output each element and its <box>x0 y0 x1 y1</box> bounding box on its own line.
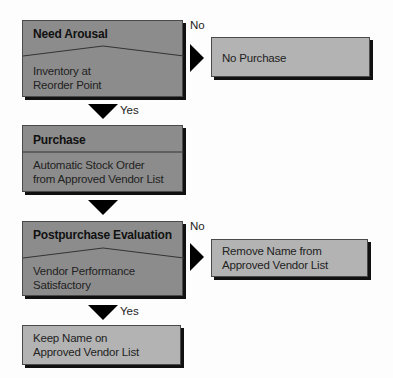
purchase-box: Purchase Automatic Stock Order from Appr… <box>22 125 183 192</box>
postpurchase-line1: Vendor Performance <box>33 264 135 278</box>
purchase-line2: from Approved Vendor List <box>33 172 164 186</box>
post-yes-label: Yes <box>120 305 139 317</box>
need-no-label: No <box>190 19 205 31</box>
purchase-line1: Automatic Stock Order <box>33 158 144 172</box>
remove-name-line2: Approved Vendor List <box>222 258 328 272</box>
no-purchase-box: No Purchase <box>211 37 370 77</box>
down-arrow-icon <box>88 104 118 119</box>
no-purchase-text: No Purchase <box>222 51 286 65</box>
postpurchase-box: Postpurchase Evaluation Vendor Performan… <box>22 221 183 296</box>
post-no-label: No <box>190 220 205 232</box>
need-arousal-line2: Reorder Point <box>33 78 101 92</box>
remove-name-line1: Remove Name from <box>222 244 322 258</box>
remove-name-box: Remove Name from Approved Vendor List <box>211 239 368 277</box>
postpurchase-line2: Satisfactory <box>33 278 91 292</box>
right-arrow-icon <box>190 44 204 72</box>
need-arousal-line1: Inventory at <box>33 64 91 78</box>
down-arrow-icon <box>88 200 118 215</box>
down-arrow-icon <box>88 305 118 320</box>
need-arousal-box: Need Arousal Inventory at Reorder Point <box>22 20 183 97</box>
right-arrow-icon <box>190 243 204 271</box>
keep-name-line2: Approved Vendor List <box>33 345 139 359</box>
keep-name-box: Keep Name on Approved Vendor List <box>22 325 181 365</box>
keep-name-line1: Keep Name on <box>33 331 107 345</box>
need-yes-label: Yes <box>120 104 139 116</box>
